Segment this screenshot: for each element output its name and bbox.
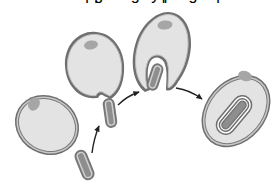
arrow-1-icon — [92, 126, 99, 153]
stage-3-cell — [133, 12, 191, 92]
arrow-3-icon — [176, 88, 202, 99]
phagocytosis-diagram: Bacterium approaches cell Cell membrane … — [0, 0, 274, 189]
stage-4-label: Bacterium enclosed in phagosome — [0, 0, 246, 3]
stage-2-cell — [65, 32, 124, 99]
arrow-2-icon — [118, 92, 139, 105]
stage-1-bacterium — [72, 148, 96, 183]
stage-2-bacterium — [102, 97, 118, 128]
